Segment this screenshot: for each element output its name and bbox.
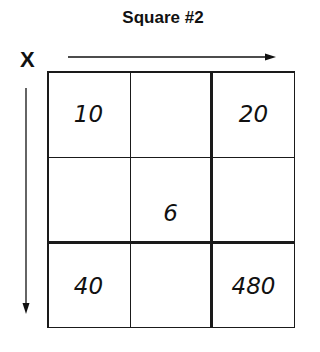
down-arrow-icon: [23, 88, 30, 314]
cell-r3-c1: 40: [47, 244, 130, 327]
number-grid: 10 20 6 40 480: [47, 71, 295, 328]
cell-r3-c3: 480: [213, 244, 294, 327]
cell-r3-c2: [131, 244, 210, 327]
cell-r2-c3: [213, 158, 294, 241]
cell-r2-c2: 6: [131, 171, 210, 254]
right-arrow-icon: [68, 54, 276, 61]
cell-r2-c1: [47, 158, 130, 241]
cell-r1-c1: 10: [47, 71, 130, 157]
cell-r1-c2: [131, 71, 210, 157]
cell-r1-c3: 20: [213, 71, 294, 157]
